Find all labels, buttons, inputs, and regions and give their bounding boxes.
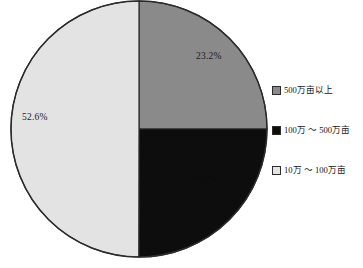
chart-legend: 500万亩以上 100万 ～ 500万亩 10万 ～ 100万亩 [272,84,363,176]
legend-swatch-icon-500wan-above [272,86,281,95]
legend-item-500wan-above[interactable]: 500万亩以上 [272,84,363,96]
legend-swatch-icon-100wan-to-500wan [272,126,281,135]
legend-label-100wan-to-500wan: 100万 ～ 500万亩 [284,125,350,135]
pie-chart-svg [0,0,280,268]
pie-label-100wan-to-500wan: 24.2% [190,174,216,184]
legend-label-500wan-above: 500万亩以上 [284,85,333,95]
pie-slice-500wan-above[interactable] [139,1,267,129]
pie-label-500wan-above: 23.2% [196,51,222,61]
pie-slice-100wan-to-500wan[interactable] [139,129,267,257]
pie-label-10wan-to-100wan: 52.6% [22,112,48,122]
legend-label-10wan-to-100wan: 10万 ～ 100万亩 [284,165,346,175]
legend-item-100wan-to-500wan[interactable]: 100万 ～ 500万亩 [272,124,363,136]
pie-chart-plot-area: 23.2% 52.6% 24.2% [0,0,280,268]
legend-item-10wan-to-100wan[interactable]: 10万 ～ 100万亩 [272,164,363,176]
pie-slice-10wan-to-100wan[interactable] [11,1,139,257]
pie-chart-figure: 23.2% 52.6% 24.2% 500万亩以上 100万 ～ 500万亩 1… [0,0,363,268]
legend-swatch-icon-10wan-to-100wan [272,166,281,175]
